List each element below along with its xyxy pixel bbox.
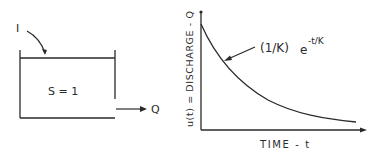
curve-annotation-coef: (1/K) (260, 41, 289, 55)
annotation-arrowhead-icon (224, 56, 232, 62)
outflow-label: Q (151, 103, 160, 116)
curve-annotation-exponent: -t/K (308, 36, 325, 46)
inflow-arrow-icon (27, 31, 45, 53)
reservoir (20, 50, 115, 118)
outflow-arrowhead-icon (140, 106, 147, 112)
storage-label: S = 1 (48, 85, 78, 98)
x-axis-label: TIME - t (259, 139, 311, 150)
x-axis-arrow-icon (360, 128, 367, 133)
annotation-arrow-icon (228, 47, 255, 59)
recession-curve (201, 24, 356, 122)
inflow-label: I (16, 22, 19, 35)
curve-annotation-base: e (300, 43, 307, 57)
graph-axes (201, 12, 364, 130)
y-axis-label: u(t) = DISCHARGE - Q (184, 11, 195, 128)
y-axis-arrow-icon (199, 10, 202, 13)
inflow-arrowhead-icon (42, 49, 47, 55)
linear-reservoir-diagram: I S = 1 Q (1/K) e -t/K u(t) = DISCHARGE … (0, 0, 385, 152)
